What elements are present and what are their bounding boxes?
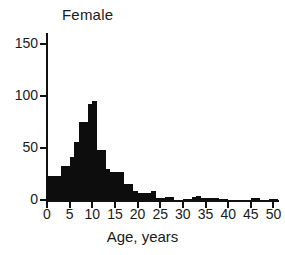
histogram-bar xyxy=(224,199,229,200)
histogram-figure: Female 050100150 Age, years 051015202530… xyxy=(0,0,285,255)
y-axis-tick xyxy=(40,199,46,201)
histogram-bar xyxy=(273,199,278,200)
x-axis-tick-label: 50 xyxy=(260,206,285,222)
y-axis-tick xyxy=(40,147,46,149)
y-axis-tick xyxy=(40,43,46,45)
histogram-bar xyxy=(169,197,174,200)
y-axis-tick xyxy=(40,95,46,97)
histogram-bar xyxy=(255,198,260,200)
x-axis-label: Age, years xyxy=(0,228,285,245)
